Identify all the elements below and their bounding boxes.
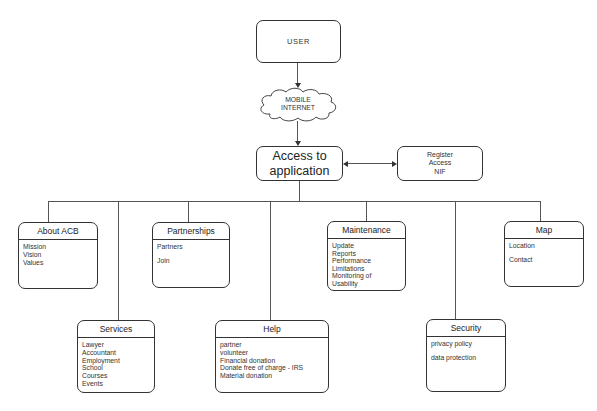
module-item: Employment [82,357,150,365]
module-items: privacy policy data protection [427,337,505,371]
mobile-internet-label: MOBILE INTERNET [256,86,340,122]
connector-drop-help [270,201,271,320]
module-items: Update Reports Performance Limitations M… [328,239,405,291]
register-access-node: Register Access NIF [397,146,483,181]
module-title: Partnerships [153,223,229,240]
user-node: USER [256,20,341,63]
module-items: partner volunteer Financial donation Don… [216,338,328,383]
connector-internet-to-access [297,121,298,142]
module-item: Reports [332,250,401,258]
module-item: Partners [157,243,225,251]
module-item: School [82,364,150,372]
module-item: Lawyer [82,341,150,349]
module-item: Accountant [82,349,150,357]
connector-bus [48,201,541,202]
module-maintenance: Maintenance Update Reports Performance L… [327,221,406,291]
module-items: Mission Vision Values [19,240,97,271]
connector-drop-maintenance [366,201,367,222]
module-item: Courses [82,372,150,380]
access-label-line1: Access to [272,149,326,164]
module-item: Donate free of charge - IRS [220,364,324,372]
access-application-node: Access to application [256,146,343,181]
connector-drop-services [118,201,119,320]
module-item: partner [220,341,324,349]
module-security: Security privacy policy data protection [426,319,506,392]
module-item: Location [509,242,579,250]
module-help: Help partner volunteer Financial donatio… [215,320,329,393]
connector-access-register [347,163,392,164]
module-item: Performance [332,257,401,265]
module-title: Maintenance [328,222,405,239]
connector-drop-about [48,201,49,222]
module-title: Help [216,321,328,338]
user-label: USER [287,37,310,46]
connector-access-to-bus [299,180,300,201]
mobile-internet-node: MOBILE INTERNET [256,86,340,122]
module-item: Update [332,242,401,250]
module-title: Map [505,222,583,239]
connector-drop-partnerships [188,201,189,222]
module-items: Partners Join [153,240,229,274]
module-about-acb: About ACB Mission Vision Values [18,222,98,289]
connector-user-to-internet [297,62,298,84]
module-item: Usability [332,280,401,288]
module-item: Material donation [220,372,324,380]
module-item: Financial donation [220,357,324,365]
module-services: Services Lawyer Accountant Employment Sc… [77,320,155,393]
module-item: Vision [23,251,93,259]
module-item: Monitoring of [332,272,401,280]
module-item: Join [157,257,225,265]
module-item: Mission [23,243,93,251]
module-item: volunteer [220,349,324,357]
module-title: Security [427,320,505,337]
register-access-label: Register Access NIF [427,151,453,177]
module-map: Map Location Contact [504,221,584,287]
access-label-line2: application [270,164,330,179]
module-title: About ACB [19,223,97,240]
module-items: Location Contact [505,239,583,273]
module-item: data protection [431,354,501,362]
module-item: Values [23,259,93,267]
connector-drop-security [455,201,456,319]
arrowhead-left-icon [343,161,348,167]
connector-drop-map [540,201,541,222]
module-item: privacy policy [431,340,501,348]
module-item: Events [82,380,150,388]
module-item: Contact [509,256,579,264]
module-partnerships: Partnerships Partners Join [152,222,230,288]
module-title: Services [78,321,154,338]
module-item: Limitations [332,265,401,273]
module-items: Lawyer Accountant Employment School Cour… [78,338,154,391]
